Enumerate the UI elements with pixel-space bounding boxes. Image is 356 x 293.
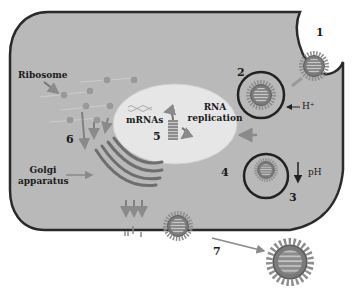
- rna-replication-label-line2: replication: [180, 114, 250, 123]
- ribosome-label: Ribosome: [18, 71, 68, 80]
- golgi-label-line1: Golgi: [23, 166, 63, 175]
- step-2: 2: [237, 67, 245, 78]
- cell-diagram: [0, 0, 356, 293]
- step-4: 4: [221, 167, 229, 178]
- rna-replication-label-line1: RNA: [185, 103, 245, 112]
- mrnas-label: mRNAs: [126, 116, 163, 125]
- ph-label: pH: [308, 168, 322, 177]
- step-1: 1: [316, 27, 324, 38]
- step-6: 6: [66, 134, 74, 145]
- proton-label: H⁺: [302, 102, 315, 111]
- golgi-label-line2: apparatus: [18, 177, 68, 186]
- step-5: 5: [153, 131, 161, 142]
- step-3: 3: [289, 192, 297, 203]
- step-7: 7: [213, 246, 221, 257]
- virion-released: [269, 241, 311, 283]
